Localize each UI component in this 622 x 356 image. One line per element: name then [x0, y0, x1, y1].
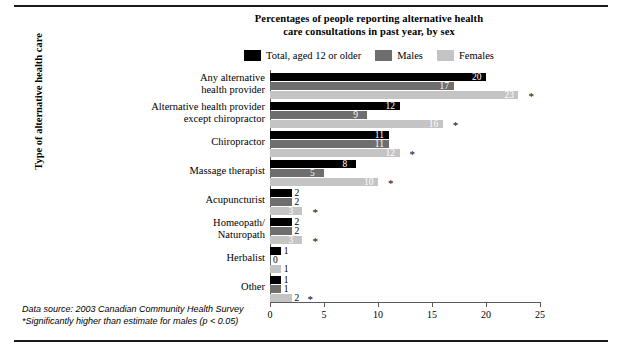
bar-group: 201723*: [270, 73, 540, 100]
significance-marker: *: [528, 91, 534, 101]
category-label-line: Other: [65, 281, 265, 293]
legend-item-females: Females: [437, 50, 494, 61]
bar-value-label: 17: [440, 81, 450, 91]
legend-label-females: Females: [459, 50, 494, 61]
legend-item-males: Males: [375, 50, 423, 61]
bar: [270, 102, 400, 110]
x-axis-tick-label: 5: [322, 309, 327, 320]
bar-row: 16*: [270, 120, 540, 128]
x-axis-tick: [540, 302, 541, 307]
bar-value-label: 12: [386, 101, 396, 111]
bar-row: 8: [270, 160, 540, 168]
category-label: Homeopath/Naturopath: [65, 217, 265, 241]
bar-value-label: 2: [295, 293, 300, 303]
legend-label-total: Total, aged 12 or older: [266, 50, 361, 61]
bar-row: 0: [270, 256, 540, 264]
x-axis-tick-label: 20: [481, 309, 491, 320]
bar: [270, 120, 443, 128]
bar-value-label: 3: [288, 206, 293, 216]
footnotes: Data source: 2003 Canadian Community Hea…: [22, 303, 282, 327]
bar-value-label: 12: [386, 148, 396, 158]
bar-value-label: 9: [353, 110, 358, 120]
bar-row: 20: [270, 73, 540, 81]
bar: [270, 149, 400, 157]
significance-marker: *: [308, 294, 314, 304]
bar-group: 223*: [270, 189, 540, 216]
category-label-line: Naturopath: [65, 229, 265, 241]
bar: [270, 256, 271, 264]
category-label-line: except chiropractor: [65, 113, 265, 125]
bar: [270, 82, 454, 90]
bar-row: 12*: [270, 149, 540, 157]
bar: [270, 131, 389, 139]
bar-group: 112*: [270, 276, 540, 303]
category-label: Alternative health providerexcept chirop…: [65, 101, 265, 125]
bar-row: 23*: [270, 91, 540, 99]
bar: [270, 236, 302, 244]
bar-row: 2: [270, 189, 540, 197]
bar-group: 223*: [270, 218, 540, 245]
significance-marker: *: [312, 236, 318, 246]
bar-row: 1: [270, 285, 540, 293]
bar-row: 1: [270, 247, 540, 255]
bar-value-label: 1: [284, 246, 289, 256]
bar-row: 10*: [270, 178, 540, 186]
chart-title-line-2: care consultations in past year, by sex: [196, 25, 542, 38]
bar-row: 1: [270, 265, 540, 273]
bar-value-label: 10: [364, 177, 374, 187]
bar: [270, 178, 378, 186]
bar-row: 2: [270, 198, 540, 206]
bar: [270, 227, 292, 235]
x-axis-tick-label: 10: [373, 309, 383, 320]
bar: [270, 198, 292, 206]
bar: [270, 189, 292, 197]
bar-value-label: 0: [273, 255, 278, 265]
source-note: Data source: 2003 Canadian Community Hea…: [22, 303, 282, 315]
bar-value-label: 3: [288, 235, 293, 245]
bar: [270, 294, 292, 302]
significance-marker: *: [388, 178, 394, 188]
bar-value-label: 23: [504, 90, 514, 100]
y-axis-title: Type of alternative health care: [33, 2, 44, 202]
bar-row: 17: [270, 82, 540, 90]
bar-row: 3*: [270, 236, 540, 244]
top-divider-rule: [14, 5, 608, 7]
category-label: Other: [65, 281, 265, 293]
bar: [270, 73, 486, 81]
legend-swatch-males: [375, 50, 392, 61]
bar: [270, 265, 281, 273]
bar: [270, 276, 281, 284]
category-label-line: health provider: [65, 84, 265, 96]
category-label-line: Acupuncturist: [65, 194, 265, 206]
legend-label-males: Males: [397, 50, 423, 61]
chart-title-line-1: Percentages of people reporting alternat…: [196, 12, 542, 25]
bar: [270, 207, 302, 215]
significance-marker: *: [410, 149, 416, 159]
category-label: Herbalist: [65, 252, 265, 264]
bar: [270, 285, 281, 293]
chart-title: Percentages of people reporting alternat…: [196, 12, 542, 38]
y-axis-category-labels: Any alternativehealth providerAlternativ…: [62, 70, 265, 302]
category-label-line: Homeopath/: [65, 217, 265, 229]
bar-row: 2*: [270, 294, 540, 302]
bar: [270, 91, 518, 99]
category-label: Massage therapist: [65, 165, 265, 177]
bar-value-label: 8: [342, 159, 347, 169]
legend-swatch-females: [437, 50, 454, 61]
significance-marker: *: [312, 207, 318, 217]
figure-panel: Percentages of people reporting alternat…: [0, 0, 622, 356]
bar-value-label: 1: [284, 284, 289, 294]
bar-row: 12: [270, 102, 540, 110]
bar: [270, 140, 389, 148]
category-label: Any alternativehealth provider: [65, 72, 265, 96]
category-label-line: Chiropractor: [65, 136, 265, 148]
bar-value-label: 20: [472, 72, 482, 82]
bar: [270, 247, 281, 255]
bar-group: 101: [270, 247, 540, 274]
significance-note: *Significantly higher than estimate for …: [22, 315, 282, 327]
bar-row: 11: [270, 140, 540, 148]
bar-group: 111112*: [270, 131, 540, 158]
bar-row: 3*: [270, 207, 540, 215]
category-label-line: Massage therapist: [65, 165, 265, 177]
bar-value-label: 1: [284, 264, 289, 274]
